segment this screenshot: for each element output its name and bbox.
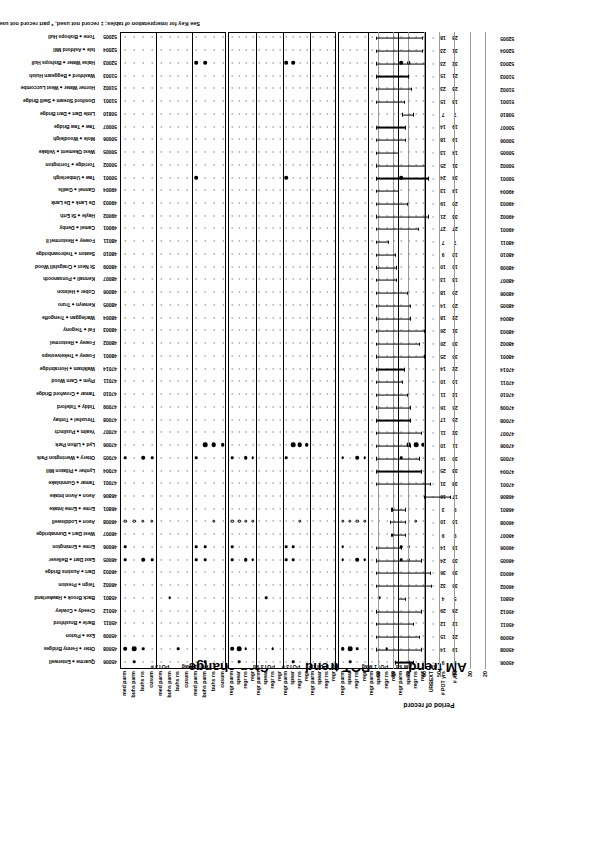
matrix-dot <box>213 254 214 255</box>
matrix-dot <box>222 381 223 382</box>
matrix-dot <box>187 190 188 191</box>
station-header-col: Lyd ● Lifton Park47006 <box>4 440 117 453</box>
matrix-dot <box>134 266 135 267</box>
bottom-station-code: 47008 <box>492 414 511 427</box>
record-bar <box>376 407 410 408</box>
matrix-dot <box>213 572 214 573</box>
row-label: buhs parm <box>201 671 207 707</box>
matrix-dot <box>342 177 343 178</box>
matrix-dot <box>239 572 240 573</box>
matrix-dot <box>300 470 301 471</box>
matrix-dot <box>364 432 365 433</box>
matrix-dot <box>194 61 198 65</box>
matrix-dot <box>178 279 179 280</box>
record-bar-cap <box>376 100 377 103</box>
matrix-dot <box>160 37 161 38</box>
gridline <box>454 32 455 669</box>
matrix-dot <box>143 279 144 280</box>
matrix-dot <box>286 368 287 369</box>
matrix-dot <box>239 215 240 216</box>
matrix-dot <box>279 623 280 624</box>
bottom-station-code-text: 45009 <box>502 634 515 640</box>
matrix-dot <box>259 190 260 191</box>
bottom-station-code-text: 47001 <box>502 481 515 487</box>
matrix-dot <box>286 113 287 114</box>
matrix-dot <box>232 636 233 637</box>
matrix-dot <box>134 636 135 637</box>
matrix-dot <box>364 254 365 255</box>
bottom-station-code-text: 50810 <box>502 112 515 118</box>
record-bar-cap <box>376 648 377 651</box>
matrix-dot <box>357 445 358 446</box>
matrix-dot <box>342 661 343 662</box>
matrix-dot <box>178 432 179 433</box>
matrix-dot <box>134 215 135 216</box>
matrix-dot <box>306 356 307 357</box>
matrix-dot <box>134 470 135 471</box>
record-bar <box>376 611 420 612</box>
station-name: Washford ● Beggearn Huish <box>29 73 95 78</box>
matrix-dot <box>259 241 260 242</box>
matrix-dot <box>169 50 170 51</box>
matrix-dot <box>205 368 206 369</box>
matrix-dot <box>178 394 179 395</box>
matrix-dot <box>266 368 267 369</box>
record-bar-cap <box>421 470 422 473</box>
station-header-col: Fowey ● Restormel48002 <box>4 338 117 351</box>
matrix-dot <box>342 101 343 102</box>
matrix-dot <box>279 483 280 484</box>
matrix-dot <box>246 190 247 191</box>
matrix-dot <box>187 37 188 38</box>
matrix-dot <box>266 88 267 89</box>
bottom-station-code: 50005 <box>492 147 511 160</box>
matrix-dot <box>300 496 301 497</box>
matrix-dot <box>222 343 223 344</box>
matrix-dot <box>357 419 358 420</box>
station-header-col: Cober ● Helston48006 <box>4 287 117 300</box>
matrix-dot <box>286 88 287 89</box>
y-tick-label: 30 <box>467 671 473 677</box>
matrix-dot <box>273 508 274 509</box>
matrix-dot <box>350 126 351 127</box>
matrix-dot <box>152 139 153 140</box>
station-name: Tamar ● Gunnislake <box>49 480 95 485</box>
matrix-dot <box>259 343 260 344</box>
matrix-dot <box>300 585 301 586</box>
matrix-dot <box>169 483 170 484</box>
matrix-dot <box>169 572 170 573</box>
matrix-dot <box>350 50 351 51</box>
matrix-dot <box>187 101 188 102</box>
matrix-dot <box>293 521 294 522</box>
bottom-station-code-text: 47007 <box>502 430 515 436</box>
matrix-dot <box>213 126 214 127</box>
y-tick-label: 40 <box>451 671 457 677</box>
matrix-dot <box>272 648 275 651</box>
matrix-dot <box>300 152 301 153</box>
matrix-dot <box>168 597 171 600</box>
matrix-dot <box>196 623 197 624</box>
matrix-dot <box>364 37 365 38</box>
matrix-dot <box>239 432 240 433</box>
matrix-dot <box>169 636 170 637</box>
matrix-dot <box>246 228 247 229</box>
matrix-dot <box>252 636 253 637</box>
matrix-dot <box>273 559 274 560</box>
matrix-dot <box>350 330 351 331</box>
matrix-dot <box>169 330 170 331</box>
station-header-col: Dart ● Austins Bridge46003 <box>4 567 117 580</box>
matrix-dot <box>239 483 240 484</box>
matrix-dot <box>333 75 334 76</box>
matrix-dot <box>342 152 343 153</box>
bottom-station-code: 51002 <box>492 83 511 96</box>
matrix-dot <box>259 139 260 140</box>
matrix-dot <box>134 585 135 586</box>
record-bar <box>376 382 402 383</box>
station-code: 48006 <box>103 289 117 295</box>
matrix-dot <box>286 636 287 637</box>
station-code: 51001 <box>103 98 117 104</box>
matrix-dot <box>313 330 314 331</box>
matrix-dot <box>286 37 287 38</box>
matrix-dot <box>273 636 274 637</box>
matrix-dot <box>152 368 153 369</box>
matrix-dot <box>259 101 260 102</box>
